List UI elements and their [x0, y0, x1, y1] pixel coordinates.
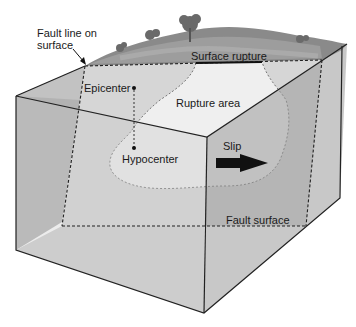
fault-diagram: Fault line on surface Surface rupture Ep…	[0, 0, 356, 327]
label-fault-line-on-surface: Fault line on surface	[37, 27, 97, 51]
label-slip: Slip	[223, 140, 241, 152]
hypocenter-dot	[132, 146, 136, 150]
label-epicenter: Epicenter	[84, 82, 130, 94]
label-hypocenter: Hypocenter	[122, 153, 178, 165]
label-surface-rupture: Surface rupture	[191, 50, 267, 62]
surface-rupture-line	[196, 62, 262, 63]
label-rupture-area: Rupture area	[176, 97, 240, 109]
epicenter-dot	[132, 86, 136, 90]
label-fault-surface: Fault surface	[226, 214, 290, 226]
